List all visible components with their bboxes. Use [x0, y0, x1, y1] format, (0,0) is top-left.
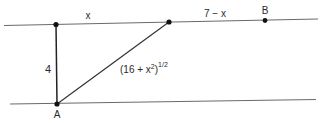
geometry-diagram: x 7 − x B 4 (16 + x2)1/2 A [0, 0, 322, 123]
label-A: A [54, 109, 61, 120]
point-B [263, 18, 268, 23]
label-x: x [86, 10, 91, 21]
svg-text:(16 + x2)1/2: (16 + x2)1/2 [120, 61, 168, 75]
label-7-minus-x: 7 − x [204, 8, 226, 19]
point-junction [166, 19, 171, 24]
label-hypotenuse: (16 + x2)1/2 [120, 61, 168, 75]
point-foot [53, 22, 58, 27]
point-A [54, 101, 59, 106]
vertical-segment [56, 25, 57, 105]
top-line [4, 19, 318, 26]
label-B: B [262, 5, 269, 16]
label-4: 4 [45, 63, 51, 75]
